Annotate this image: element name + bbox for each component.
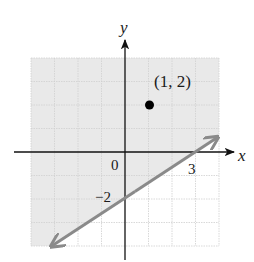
test-point [145, 101, 154, 110]
y-axis-label: y [118, 18, 128, 37]
inequality-graph: y x 0 3 −2 (1, 2) [0, 0, 254, 262]
origin-label: 0 [111, 157, 119, 173]
y-tick-label-neg2: −2 [95, 189, 111, 205]
x-tick-label-3: 3 [188, 161, 196, 177]
point-label: (1, 2) [154, 72, 191, 91]
x-axis-label: x [237, 146, 246, 165]
